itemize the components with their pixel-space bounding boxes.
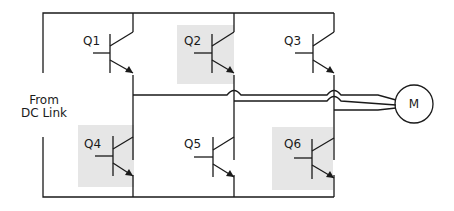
q2-label: Q2 — [184, 34, 201, 48]
source-label-line2: DC Link — [21, 106, 67, 120]
q6-label: Q6 — [284, 137, 301, 151]
transistor-q3: Q3 — [284, 32, 334, 73]
motor-label: M — [409, 97, 419, 111]
q1-label: Q1 — [83, 34, 100, 48]
motor: M — [395, 85, 433, 123]
inverter-diagram: M Q1 Q2 Q3 Q4 — [0, 0, 454, 211]
q3-label: Q3 — [284, 34, 301, 48]
transistor-q1: Q1 — [83, 32, 133, 73]
source-label-line1: From — [29, 93, 59, 107]
q4-label: Q4 — [84, 137, 101, 151]
transistor-q5: Q5 — [184, 137, 234, 177]
q5-label: Q5 — [184, 137, 201, 151]
phase-a-line — [133, 91, 396, 101]
phase-b-line — [234, 97, 396, 106]
phase-c-line — [334, 108, 396, 110]
